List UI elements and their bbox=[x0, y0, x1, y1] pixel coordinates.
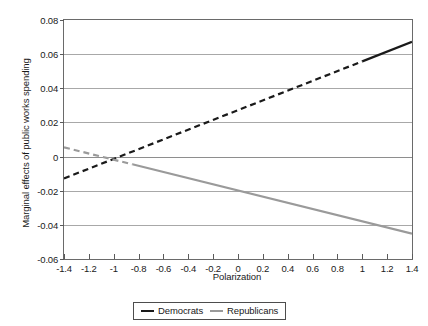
x-axis-title: Polarization bbox=[63, 271, 411, 282]
series-line-democrats bbox=[362, 42, 412, 62]
legend-item-democrats[interactable]: Democrats bbox=[141, 305, 203, 316]
plot-area: 0.080.060.040.020-0.02-0.04-0.06 -1.4-1.… bbox=[63, 19, 413, 260]
series-line-democrats bbox=[64, 61, 362, 178]
plot-inner: 0.080.060.040.020-0.02-0.04-0.06 -1.4-1.… bbox=[64, 20, 412, 259]
y-tick-mark bbox=[60, 259, 64, 260]
y-tick-label: 0.08 bbox=[40, 15, 58, 26]
legend-label: Republicans bbox=[227, 305, 278, 316]
y-tick-label: -0.06 bbox=[37, 254, 58, 265]
y-tick-label: -0.02 bbox=[37, 185, 58, 196]
y-axis-title: Marginal effects of public works spendin… bbox=[14, 14, 36, 272]
chart-legend: DemocratsRepublicans bbox=[133, 302, 286, 320]
chart-figure: Marginal effects of public works spendin… bbox=[0, 0, 428, 326]
y-tick-label: -0.04 bbox=[37, 219, 58, 230]
series-lines bbox=[64, 20, 412, 259]
legend-label: Democrats bbox=[158, 305, 203, 316]
x-tick-mark bbox=[412, 254, 413, 259]
y-tick-label: 0.02 bbox=[40, 117, 58, 128]
series-line-republicans bbox=[132, 164, 412, 233]
y-tick-label: 0.06 bbox=[40, 49, 58, 60]
legend-swatch-icon bbox=[210, 310, 223, 312]
legend-item-republicans[interactable]: Republicans bbox=[210, 305, 278, 316]
y-tick-label: 0 bbox=[53, 151, 58, 162]
y-tick-label: 0.04 bbox=[40, 83, 58, 94]
legend-swatch-icon bbox=[141, 310, 154, 312]
